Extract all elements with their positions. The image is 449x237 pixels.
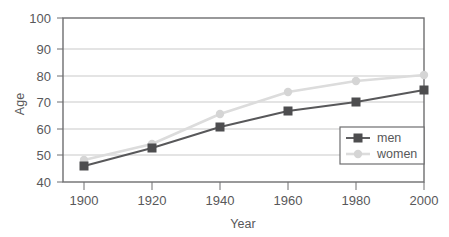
men-point-2000 — [420, 86, 429, 95]
y-tick-label-80: 80 — [37, 69, 51, 84]
chart-screenshot: 100 90 80 70 60 50 40 1900 1920 1940 196… — [0, 0, 449, 237]
x-tick-label-1960: 1960 — [274, 193, 303, 208]
x-axis-title: Year — [230, 217, 255, 231]
men-point-1900 — [80, 162, 89, 171]
y-tick-label-90: 90 — [37, 42, 51, 57]
y-axis-ticks — [57, 18, 63, 182]
women-point-1980 — [352, 77, 360, 85]
women-point-1960 — [284, 88, 292, 96]
legend-label-men: men — [377, 131, 401, 145]
legend-marker-men-square-icon — [354, 134, 363, 143]
legend-label-women: women — [376, 147, 417, 161]
men-point-1980 — [352, 98, 361, 107]
chart-legend[interactable]: men women — [340, 127, 424, 164]
x-axis-ticks — [84, 182, 424, 190]
line-chart: 100 90 80 70 60 50 40 1900 1920 1940 196… — [0, 0, 449, 237]
y-axis-title: Age — [13, 93, 27, 115]
women-point-1940 — [216, 110, 224, 118]
y-tick-label-100: 100 — [29, 11, 51, 26]
y-tick-label-40: 40 — [37, 175, 51, 190]
y-tick-label-70: 70 — [37, 95, 51, 110]
men-point-1940 — [216, 123, 225, 132]
women-point-2000 — [420, 71, 428, 79]
x-tick-label-2000: 2000 — [410, 193, 439, 208]
x-tick-label-1900: 1900 — [70, 193, 99, 208]
men-point-1960 — [284, 107, 293, 116]
legend-marker-women-circle-icon — [354, 150, 362, 158]
x-tick-label-1980: 1980 — [342, 193, 371, 208]
chart-svg: 100 90 80 70 60 50 40 1900 1920 1940 196… — [0, 0, 449, 237]
x-tick-label-1940: 1940 — [206, 193, 235, 208]
y-tick-label-60: 60 — [37, 122, 51, 137]
y-tick-label-50: 50 — [37, 148, 51, 163]
x-tick-label-1920: 1920 — [138, 193, 167, 208]
x-tick-labels: 1900 1920 1940 1960 1980 2000 — [70, 193, 439, 208]
men-point-1920 — [148, 144, 157, 153]
y-tick-labels: 100 90 80 70 60 50 40 — [29, 11, 51, 190]
